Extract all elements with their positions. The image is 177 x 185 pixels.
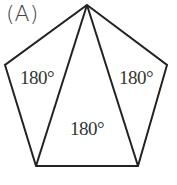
angle-label-left: 180° bbox=[20, 67, 54, 89]
angle-label-right: 180° bbox=[119, 67, 153, 89]
angle-label-center: 180° bbox=[70, 118, 104, 140]
figure-title: (A) bbox=[6, 1, 38, 26]
pentagon-diagram bbox=[0, 0, 177, 185]
